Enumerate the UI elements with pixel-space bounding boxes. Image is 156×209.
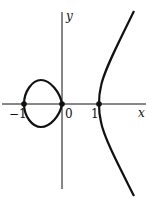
point-zero: [59, 101, 65, 107]
y-axis-label: y: [65, 9, 73, 23]
tick-label-zero: 0: [65, 107, 73, 121]
tick-label-one: 1: [91, 107, 99, 121]
point-neg-one: [21, 101, 27, 107]
tick-label-neg-one: −1: [9, 107, 27, 121]
point-one: [96, 101, 102, 107]
x-axis-label: x: [138, 106, 145, 120]
elliptic-curve-figure: y x −1 0 1: [0, 0, 156, 209]
